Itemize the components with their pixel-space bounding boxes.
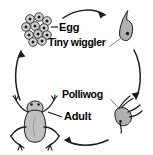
- stage-label-polliwog: Polliwog: [62, 89, 103, 100]
- egg-cluster-icon: [22, 13, 52, 47]
- tadpole-hatchling-icon: [120, 11, 133, 41]
- frog-life-cycle-diagram: Egg Tiny wiggler Polliwog Adult: [0, 0, 153, 155]
- stage-label-egg: Egg: [59, 22, 79, 33]
- arrow-polliwog-to-adult: [65, 137, 108, 146]
- arrow-adult-to-egg: [16, 51, 26, 100]
- leader-line-adult: [48, 112, 62, 117]
- stage-label-tiny-wiggler: Tiny wiggler: [48, 37, 105, 48]
- frog-icon: [11, 95, 59, 150]
- arrow-wiggler-to-polliwog: [132, 50, 141, 99]
- leader-line-tiny-wiggler: [109, 38, 121, 47]
- stage-label-adult: Adult: [64, 111, 91, 122]
- arrow-egg-to-wiggler: [63, 10, 105, 18]
- leader-line-polliwog: [110, 99, 119, 108]
- tadpole-with-legs-icon: [115, 96, 142, 133]
